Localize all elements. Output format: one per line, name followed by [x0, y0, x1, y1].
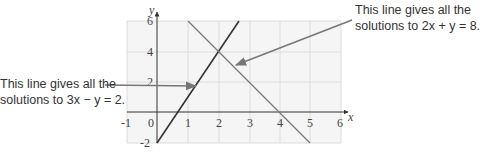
svg-text:-1: -1: [121, 116, 131, 130]
x-axis-label: x: [347, 110, 354, 124]
left-annotation-line1: This line gives all the: [0, 76, 125, 92]
left-annotation: This line gives all the solutions to 3x …: [0, 76, 125, 108]
svg-text:2: 2: [147, 75, 153, 89]
svg-text:6: 6: [147, 14, 153, 28]
svg-text:6: 6: [337, 116, 343, 130]
svg-text:0: 0: [148, 116, 154, 130]
right-annotation-line1: This line gives all the: [355, 2, 480, 18]
right-annotation: This line gives all the solutions to 2x …: [355, 2, 480, 34]
svg-text:5: 5: [307, 116, 313, 130]
svg-text:1: 1: [185, 116, 191, 130]
right-annotation-line2: solutions to 2x + y = 8.: [355, 18, 480, 34]
svg-text:-2: -2: [140, 136, 150, 150]
svg-text:3: 3: [247, 116, 253, 130]
left-annotation-line2: solutions to 3x − y = 2.: [0, 92, 125, 108]
svg-text:2: 2: [216, 116, 222, 130]
svg-text:4: 4: [277, 116, 283, 130]
svg-text:4: 4: [147, 45, 153, 59]
